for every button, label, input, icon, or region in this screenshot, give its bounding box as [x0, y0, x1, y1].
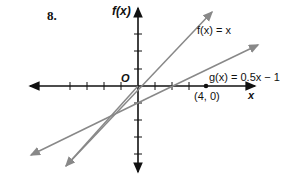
problem-number: 8. — [47, 8, 57, 24]
line-g-label: g(x) = 0.5x − 1 — [209, 71, 280, 83]
y-axis-label: f(x) — [112, 4, 131, 18]
line-f-label: f(x) = x — [197, 24, 231, 36]
x-axis-label: x — [248, 89, 254, 101]
coordinate-plane — [0, 0, 289, 181]
point-label: (4, 0) — [194, 90, 220, 102]
origin-label: O — [121, 72, 130, 84]
line-f — [66, 12, 212, 166]
point-4-0 — [204, 84, 209, 89]
